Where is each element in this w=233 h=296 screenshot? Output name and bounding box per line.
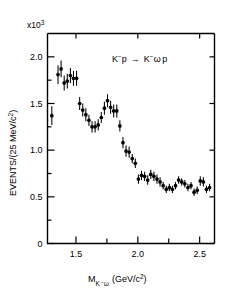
data-point — [167, 186, 171, 190]
axis-left-bottom — [48, 34, 215, 244]
data-point — [205, 188, 209, 192]
data-point — [65, 79, 69, 83]
data-point — [137, 177, 141, 181]
data-point — [155, 177, 159, 181]
data-point — [127, 150, 131, 154]
data-point — [192, 190, 196, 194]
data-series-k-omega — [50, 61, 211, 196]
data-point — [158, 180, 162, 184]
data-point — [59, 67, 63, 71]
y-axis-multiplier: x103 — [27, 19, 45, 31]
data-point — [171, 188, 175, 192]
data-point — [161, 184, 165, 188]
data-point — [99, 116, 103, 120]
data-point — [84, 113, 88, 117]
x-axis-tick-labels: 1.52.02.5 — [70, 249, 206, 259]
data-point — [174, 184, 178, 188]
data-point — [109, 105, 113, 109]
data-point — [106, 99, 110, 103]
data-point — [177, 178, 181, 182]
data-point — [189, 184, 193, 188]
data-point — [146, 178, 150, 182]
data-point — [195, 188, 199, 192]
data-point — [50, 114, 54, 118]
data-point — [69, 74, 73, 78]
axes-frame — [48, 34, 215, 244]
data-point — [103, 106, 107, 110]
data-point — [118, 124, 122, 128]
y-tick-label: 0.5 — [30, 192, 43, 202]
y-axis-ticks — [48, 57, 215, 244]
data-point — [143, 174, 147, 178]
x-tick-label: 2.0 — [132, 249, 145, 259]
data-point — [81, 108, 85, 112]
mass-spectrum-chart: 00.51.01.52.0 1.52.02.5 x103 K−p→K−ωp EV… — [0, 0, 233, 296]
data-point — [93, 125, 97, 129]
y-tick-label: 1.0 — [30, 145, 43, 155]
y-tick-label: 2.0 — [30, 52, 43, 62]
y-axis-title: EVENTS/(25 MeV/c2) — [7, 110, 19, 196]
x-axis-ticks — [76, 34, 200, 244]
data-point — [115, 109, 119, 113]
data-point — [180, 180, 184, 184]
data-point — [56, 73, 60, 77]
data-point — [133, 161, 137, 165]
data-point — [130, 157, 134, 161]
data-point — [75, 76, 79, 80]
data-point — [186, 186, 190, 190]
y-axis-tick-labels: 00.51.01.52.0 — [30, 52, 43, 249]
data-point — [121, 141, 125, 145]
x-tick-label: 2.5 — [193, 249, 206, 259]
figure-panel: 00.51.01.52.0 1.52.02.5 x103 K−p→K−ωp EV… — [0, 0, 233, 296]
data-point — [78, 102, 82, 106]
y-tick-label: 1.5 — [30, 99, 43, 109]
data-point — [183, 182, 187, 186]
data-point — [152, 174, 156, 178]
data-point — [149, 173, 153, 177]
data-point — [208, 186, 212, 190]
y-tick-label: 0 — [37, 239, 42, 249]
x-axis-title: MK⁻ω(GeV/c2) — [88, 273, 147, 287]
data-point — [62, 81, 66, 85]
data-point — [202, 180, 206, 184]
data-point — [87, 118, 91, 122]
data-point — [164, 188, 168, 192]
x-tick-label: 1.5 — [70, 249, 83, 259]
reaction-annotation: K−p→K−ωp — [112, 53, 167, 65]
data-point — [96, 123, 100, 127]
